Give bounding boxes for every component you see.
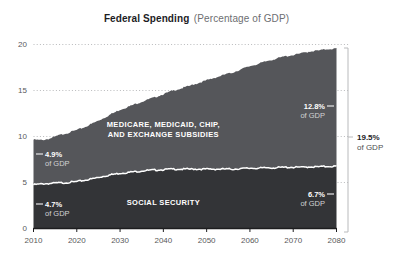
- series-label-social-security: SOCIAL SECURITY: [127, 198, 200, 207]
- x-axis-tick-label: 2050: [198, 236, 216, 245]
- x-axis-tick-label: 2070: [284, 236, 302, 245]
- callout-unit-medicare-end: of GDP: [300, 111, 325, 120]
- callout-value-medicare-start: 4.9%: [45, 150, 62, 159]
- x-axis-tick-label: 2030: [111, 236, 129, 245]
- y-axis-tick-label: 10: [18, 132, 27, 141]
- y-axis-tick-label: 20: [18, 40, 27, 49]
- total-bracket-shape: [344, 48, 348, 232]
- series-label-medicare-line2: AND EXCHANGE SUBSIDIES: [108, 130, 219, 139]
- x-axis-tick-label: 2040: [154, 236, 172, 245]
- callout-value-social-security-end: 6.7%: [308, 190, 325, 199]
- x-axis-tick-label: 2020: [68, 236, 86, 245]
- chart-canvas: 05101520 2010202020302040205020602070208…: [0, 0, 393, 264]
- callout-unit-medicare-start: of GDP: [45, 159, 70, 168]
- x-axis-tick-label: 2010: [25, 236, 43, 245]
- chart-title: Federal Spending (Percentage of GDP): [0, 8, 393, 26]
- y-axis-tick-label: 5: [23, 178, 28, 187]
- y-axis-tick-label: 15: [18, 86, 27, 95]
- x-axis-tick-label: 2080: [328, 236, 346, 245]
- total-value-label: 19.5%: [357, 133, 380, 142]
- total-bracket-group: 19.5%of GDP: [344, 48, 383, 232]
- chart-title-sub: (Percentage of GDP): [194, 13, 289, 24]
- series-label-medicare: MEDICARE, MEDICAID, CHIP,: [107, 120, 220, 129]
- chart-title-main: Federal Spending: [104, 13, 190, 24]
- callout-unit-social-security-end: of GDP: [300, 199, 325, 208]
- callout-value-medicare-end: 12.8%: [304, 102, 326, 111]
- x-axis-group: 20102020203020402050206020702080: [25, 228, 346, 245]
- callout-value-social-security-start: 4.7%: [45, 200, 62, 209]
- x-axis-tick-label: 2060: [241, 236, 259, 245]
- federal-spending-chart: Federal Spending (Percentage of GDP) 051…: [0, 0, 393, 264]
- total-unit-label: of GDP: [357, 143, 383, 152]
- y-axis-group: 05101520: [18, 40, 27, 233]
- y-axis-tick-label: 0: [23, 224, 28, 233]
- area-band-medicare: [34, 48, 337, 185]
- callout-unit-social-security-start: of GDP: [45, 209, 70, 218]
